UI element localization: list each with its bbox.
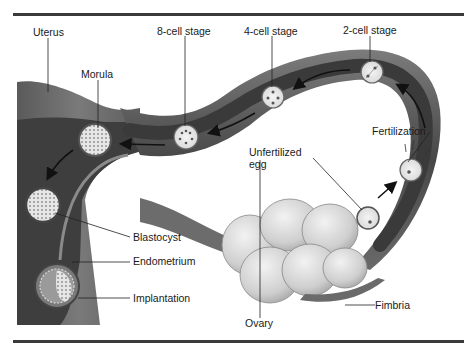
- label-4-cell-stage: 4-cell stage: [244, 26, 298, 37]
- label-ovary: Ovary: [245, 318, 273, 329]
- ovary: [222, 199, 367, 303]
- zygote-nucleus: [407, 170, 411, 174]
- arrow-to-fertilization: [378, 183, 395, 198]
- label-unfertilized: Unfertilized: [249, 147, 302, 158]
- label-endometrium: Endometrium: [133, 256, 195, 267]
- label-fimbria: Fimbria: [375, 300, 410, 311]
- implanted-embryo: [35, 264, 79, 308]
- fertilized-egg: [400, 159, 422, 181]
- blastocyst: [26, 188, 60, 222]
- egg-nucleus: [368, 220, 372, 224]
- unfertilized-egg: [357, 207, 379, 229]
- label-8-cell-stage: 8-cell stage: [157, 26, 211, 37]
- label-egg: egg: [249, 159, 267, 170]
- reproductive-tract-illustration: [0, 0, 464, 345]
- eight-cell-embryo: [174, 125, 198, 149]
- two-cell-embryo: [361, 61, 383, 83]
- label-implantation: Implantation: [133, 293, 190, 304]
- four-cell-embryo: [262, 86, 284, 108]
- label-blastocyst: Blastocyst: [133, 232, 181, 243]
- label-fertilization: Fertilization: [372, 126, 426, 137]
- label-2-cell-stage: 2-cell stage: [343, 25, 397, 36]
- label-uterus: Uterus: [33, 27, 64, 38]
- arrow-8cell-to-morula: [122, 144, 165, 145]
- ovarian-ligament: [140, 198, 232, 255]
- morula: [79, 124, 111, 156]
- leader-unfertilized-egg: [313, 158, 362, 210]
- label-morula: Morula: [81, 69, 113, 80]
